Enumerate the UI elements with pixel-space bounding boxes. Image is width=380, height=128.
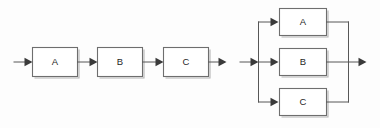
- series-block-c: C: [164, 48, 211, 79]
- series-block-a: A: [33, 48, 80, 79]
- block-diagram-figure: A B C: [0, 0, 380, 128]
- series-wire-a-to-b-arrowhead: [90, 58, 98, 66]
- parallel-input-arrowhead: [251, 58, 259, 66]
- parallel-stub-to-a-arrowhead: [271, 18, 279, 26]
- series-connection-diagram: A B C: [14, 48, 227, 79]
- parallel-output-arrowhead: [359, 58, 367, 66]
- parallel-connection-diagram: A B C: [240, 9, 367, 118]
- parallel-block-b: B: [280, 49, 329, 78]
- series-output-arrowhead: [219, 58, 227, 66]
- series-block-a-label: A: [52, 56, 59, 67]
- series-wire-b-to-c-arrowhead: [156, 58, 164, 66]
- series-block-b-label: B: [117, 56, 123, 67]
- parallel-stub-to-c-arrowhead: [271, 98, 279, 106]
- parallel-block-b-label: B: [300, 56, 306, 67]
- parallel-block-a-label: A: [300, 16, 307, 27]
- series-block-b: B: [98, 48, 145, 79]
- series-input-arrowhead: [25, 58, 33, 66]
- parallel-block-c: C: [280, 89, 329, 118]
- parallel-block-c-label: C: [300, 96, 307, 107]
- parallel-stub-to-b-arrowhead: [271, 58, 279, 66]
- parallel-block-a: A: [280, 9, 329, 38]
- series-block-c-label: C: [183, 56, 190, 67]
- diagram-canvas: A B C: [0, 0, 380, 128]
